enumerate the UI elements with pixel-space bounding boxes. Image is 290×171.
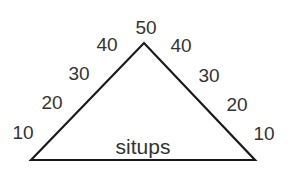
left-label-30: 30 [68, 64, 89, 83]
right-label-30: 30 [198, 66, 219, 85]
left-label-10: 10 [12, 123, 33, 142]
apex-label: 50 [135, 18, 156, 37]
right-label-20: 20 [226, 95, 247, 114]
triangle-diagram: 50 10 20 30 40 40 30 20 10 situps [0, 0, 290, 171]
left-label-20: 20 [41, 93, 62, 112]
right-label-10: 10 [253, 124, 274, 143]
center-label: situps [116, 136, 171, 157]
left-label-40: 40 [96, 35, 117, 54]
right-label-40: 40 [170, 36, 191, 55]
